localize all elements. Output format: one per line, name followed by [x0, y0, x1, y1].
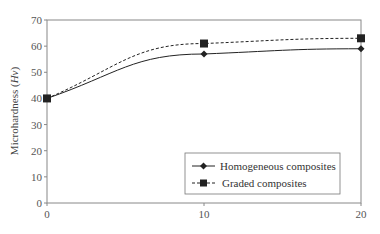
legend: Homogeneous composites Graded composites [185, 153, 340, 194]
x-axis-ticks: 01020 [44, 203, 367, 220]
x-tick-label: 10 [199, 208, 211, 220]
square-marker-icon [200, 180, 207, 187]
line-chart: 010203040506070 01020 Microhardness (Hv)… [0, 0, 380, 234]
x-tick-label: 0 [44, 208, 50, 220]
y-tick-label: 70 [31, 14, 43, 26]
y-tick-label: 30 [31, 119, 43, 131]
y-axis-ticks: 010203040506070 [31, 14, 47, 209]
diamond-marker-icon [358, 45, 365, 52]
y-tick-label: 0 [37, 197, 43, 209]
legend-label-homogeneous: Homogeneous composites [220, 160, 336, 172]
y-axis-title: Microhardness (Hv) [8, 67, 21, 156]
square-marker-icon [357, 34, 365, 42]
x-tick-label: 20 [356, 208, 368, 220]
legend-label-graded: Graded composites [222, 177, 307, 189]
series-layer [43, 34, 365, 102]
square-marker-icon [43, 94, 51, 102]
diamond-marker-icon [201, 50, 208, 57]
y-tick-label: 20 [31, 145, 43, 157]
y-tick-label: 40 [31, 92, 43, 104]
square-marker-icon [200, 40, 208, 48]
y-tick-label: 60 [31, 40, 43, 52]
y-tick-label: 50 [31, 66, 43, 78]
y-tick-label: 10 [31, 171, 43, 183]
